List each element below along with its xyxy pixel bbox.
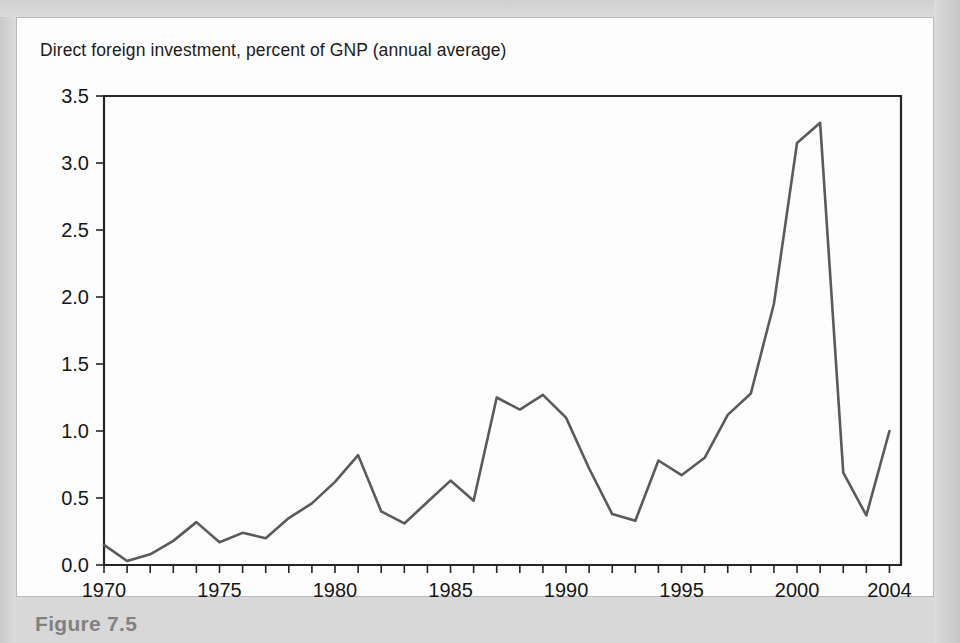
y-tick-label: 1.5 <box>61 353 89 375</box>
x-axis-ticks <box>104 565 889 573</box>
y-tick-label: 2.0 <box>61 286 89 308</box>
line-chart: 0.00.51.01.52.02.53.03.5 197019751980198… <box>0 0 960 643</box>
data-series-line <box>104 123 889 561</box>
x-tick-label: 2000 <box>775 579 820 601</box>
x-tick-label: 1985 <box>428 579 473 601</box>
x-tick-label: 1995 <box>659 579 704 601</box>
page-background: Direct foreign investment, percent of GN… <box>0 0 960 643</box>
y-tick-label: 1.0 <box>61 420 89 442</box>
y-tick-label: 3.5 <box>61 85 89 107</box>
x-tick-label: 1970 <box>82 579 127 601</box>
y-tick-label: 0.5 <box>61 487 89 509</box>
y-tick-label: 3.0 <box>61 152 89 174</box>
y-tick-label: 2.5 <box>61 219 89 241</box>
y-tick-label: 0.0 <box>61 554 89 576</box>
y-axis-tick-labels: 0.00.51.01.52.02.53.03.5 <box>61 85 89 576</box>
y-axis-ticks <box>96 96 104 565</box>
x-tick-label: 1990 <box>544 579 589 601</box>
axis-frame <box>104 96 901 565</box>
x-tick-label: 1975 <box>197 579 242 601</box>
x-tick-label: 2004 <box>867 579 912 601</box>
x-tick-label: 1980 <box>313 579 358 601</box>
figure-caption: Figure 7.5 <box>35 612 137 643</box>
x-axis-tick-labels: 19701975198019851990199520002004 <box>82 579 912 601</box>
